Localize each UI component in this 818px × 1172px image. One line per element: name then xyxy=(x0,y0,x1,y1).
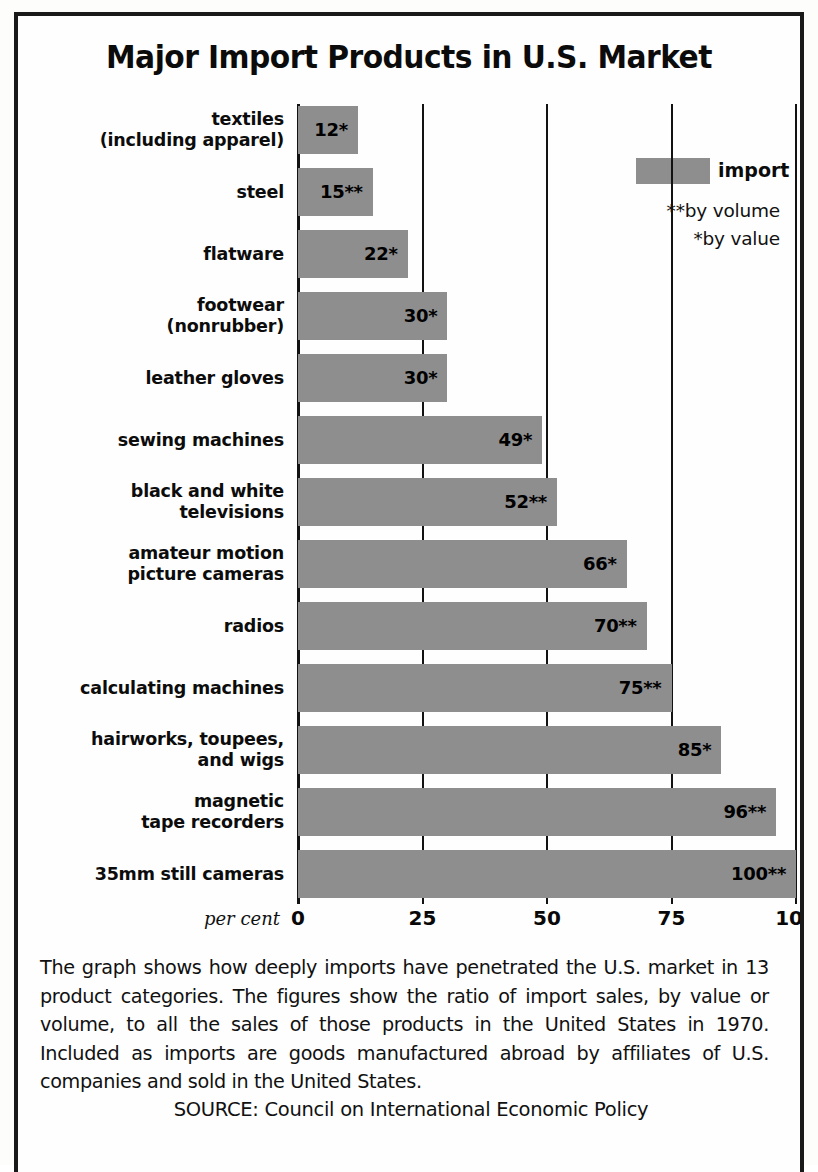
bar-row[interactable]: 35mm still cameras100** xyxy=(18,850,804,912)
chart-title: Major Import Products in U.S. Market xyxy=(45,38,772,76)
bar-value-label: 30* xyxy=(404,305,438,326)
bar-value-label: 22* xyxy=(364,243,398,264)
bar-category-label: amateur motionpicture cameras xyxy=(44,543,284,585)
x-axis: per cent 0255075100 xyxy=(18,906,804,940)
bar-category-label: leather gloves xyxy=(44,368,284,389)
bar-row[interactable]: magnetictape recorders96** xyxy=(18,788,804,850)
bar-row[interactable]: textiles(including apparel)12* xyxy=(18,106,804,168)
bar-row[interactable]: leather gloves30* xyxy=(18,354,804,416)
bar-category-label: magnetictape recorders xyxy=(44,791,284,833)
bar-rect[interactable] xyxy=(298,726,721,774)
bar-row[interactable]: steel15** xyxy=(18,168,804,230)
bar-value-label: 15** xyxy=(320,181,363,202)
bar-value-label: 100** xyxy=(731,863,786,884)
bar-rect[interactable] xyxy=(298,788,776,836)
bar-category-label: radios xyxy=(44,616,284,637)
bar-row[interactable]: footwear(nonrubber)30* xyxy=(18,292,804,354)
bar-category-label: sewing machines xyxy=(44,430,284,451)
bar-row[interactable]: sewing machines49* xyxy=(18,416,804,478)
figure-source: SOURCE: Council on International Economi… xyxy=(18,1098,804,1121)
bar-category-label: hairworks, toupees,and wigs xyxy=(44,729,284,771)
bar-value-label: 66* xyxy=(583,553,617,574)
figure-frame: Major Import Products in U.S. Market imp… xyxy=(14,12,804,1172)
bar-rect[interactable] xyxy=(298,540,627,588)
bar-row[interactable]: amateur motionpicture cameras66* xyxy=(18,540,804,602)
bar-row[interactable]: flatware22* xyxy=(18,230,804,292)
bar-category-label: footwear(nonrubber) xyxy=(44,295,284,337)
bar-row[interactable]: calculating machines75** xyxy=(18,664,804,726)
bar-value-label: 30* xyxy=(404,367,438,388)
bar-chart-plot-area: import **by volume *by value textiles(in… xyxy=(18,104,804,904)
bar-row[interactable]: black and whitetelevisions52** xyxy=(18,478,804,540)
bar-category-label: flatware xyxy=(44,244,284,265)
bar-value-label: 12* xyxy=(314,119,348,140)
bar-row[interactable]: hairworks, toupees,and wigs85* xyxy=(18,726,804,788)
bar-rect[interactable] xyxy=(298,850,796,898)
bar-category-label: steel xyxy=(44,182,284,203)
bar-value-label: 75** xyxy=(619,677,662,698)
bar-category-label: textiles(including apparel) xyxy=(44,109,284,151)
bar-row[interactable]: radios70** xyxy=(18,602,804,664)
bar-category-label: 35mm still cameras xyxy=(44,864,284,885)
bar-value-label: 85* xyxy=(678,739,712,760)
x-tick-label-50: 50 xyxy=(533,906,561,930)
x-tick-label-100: 100 xyxy=(775,906,804,930)
bar-category-label: calculating machines xyxy=(44,678,284,699)
bar-value-label: 52** xyxy=(504,491,547,512)
bar-value-label: 49* xyxy=(498,429,532,450)
bar-category-label: black and whitetelevisions xyxy=(44,481,284,523)
bar-value-label: 70** xyxy=(594,615,637,636)
figure-caption: The graph shows how deeply imports have … xyxy=(40,954,769,1097)
bar-rect[interactable] xyxy=(298,664,672,712)
x-tick-label-0: 0 xyxy=(291,906,305,930)
axis-unit-label: per cent xyxy=(204,908,280,929)
bar-value-label: 96** xyxy=(723,801,766,822)
x-tick-label-75: 75 xyxy=(658,906,686,930)
x-tick-label-25: 25 xyxy=(409,906,437,930)
